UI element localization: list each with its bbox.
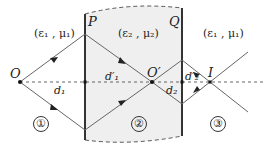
distance-d1-prime: d′₁ xyxy=(105,71,119,82)
region-2-label: ② xyxy=(131,116,147,132)
point-axis-p xyxy=(84,81,87,84)
interface-p-label: P xyxy=(88,15,97,28)
interface-q-label: Q xyxy=(169,15,180,28)
medium-1-label: (ε₁ , μ₁) xyxy=(34,28,75,39)
medium-2-label: (ε₂ , μ₂) xyxy=(118,28,159,39)
diagram: (ε₁ , μ₁) (ε₂ , μ₂) (ε₁ , μ₁) P Q O O′ I… xyxy=(0,0,271,147)
distance-d1: d₁ xyxy=(54,85,65,96)
arrow-icon xyxy=(50,104,58,110)
distance-d2-prime: d′₂ xyxy=(185,71,199,82)
region-3-label: ③ xyxy=(210,116,226,132)
arrow-icon xyxy=(193,86,200,93)
arrow-icon xyxy=(50,57,58,63)
source-o-label: O xyxy=(10,67,21,80)
region-1-label: ① xyxy=(33,116,49,132)
point-o-prime xyxy=(150,80,154,84)
medium-3-label: (ε₁ , μ₁) xyxy=(203,28,244,39)
point-axis-q xyxy=(181,81,184,84)
image-o-prime-label: O′ xyxy=(147,66,161,79)
distance-d2: d₂ xyxy=(166,85,177,96)
image-i-label: I xyxy=(208,66,213,79)
point-i xyxy=(209,81,212,84)
